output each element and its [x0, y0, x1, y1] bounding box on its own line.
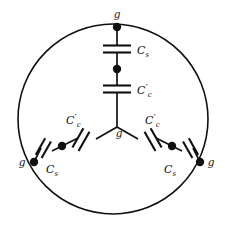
node-dot-right-mid: [168, 142, 176, 150]
label-cc-top: C′c: [137, 82, 152, 99]
label-cs-top-subscript: s: [145, 51, 149, 59]
label-cs-right-subscript: s: [172, 170, 176, 178]
label-cs-left: Cs: [46, 163, 58, 178]
node-dot-left-terminal: [30, 158, 38, 166]
label-g-top: g: [114, 8, 121, 20]
label-cc-left: C′c: [66, 112, 81, 129]
label-cc-right: C′c: [145, 112, 160, 129]
label-g-left: g: [19, 156, 26, 168]
node-dot-top-terminal: [113, 23, 121, 31]
node-dot-top-mid: [113, 65, 121, 73]
label-g-right: g: [208, 156, 215, 168]
node-dot-right-terminal: [196, 158, 204, 166]
label-cs-left-subscript: s: [54, 170, 58, 178]
label-g-center: g: [116, 127, 123, 139]
left-branch-wire-inner: [96, 127, 117, 139]
capacitor-network-diagram: g g g g Cs C′c C′c Cs C′c Cs: [0, 0, 225, 233]
diagram-canvas: g g g g Cs C′c C′c Cs C′c Cs: [0, 0, 225, 233]
label-cc-right-subscript: c: [156, 121, 160, 129]
label-cs-top: Cs: [137, 44, 149, 59]
label-cc-top-subscript: c: [148, 91, 152, 99]
label-cc-left-subscript: c: [77, 121, 81, 129]
label-cs-right: Cs: [164, 163, 176, 178]
node-dot-left-mid: [58, 142, 66, 150]
